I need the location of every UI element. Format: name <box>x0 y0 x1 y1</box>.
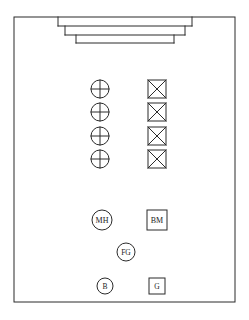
symbol-b-label: B <box>102 282 107 291</box>
symbol-benchmark-label: BM <box>151 216 163 225</box>
symbol-finished-ground-label: FG <box>121 248 131 257</box>
symbol-g-label: G <box>154 282 160 291</box>
legend-diagram-sheet: MHBMFGBG <box>0 0 249 320</box>
symbol-manhole-label: MH <box>96 216 109 225</box>
diagram-canvas: MHBMFGBG <box>0 0 249 320</box>
sheet-border <box>14 17 235 302</box>
